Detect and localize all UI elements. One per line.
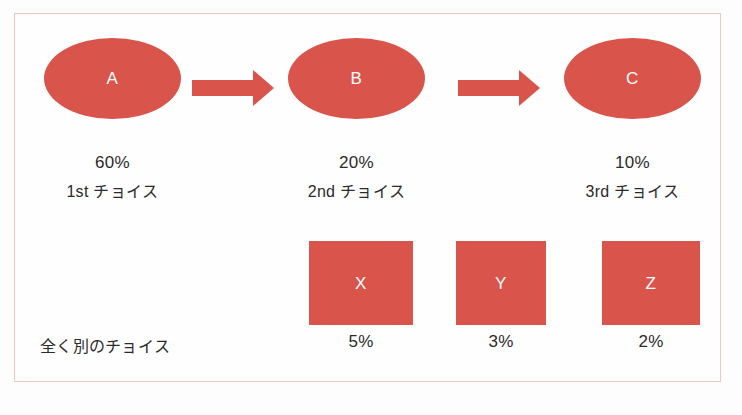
flow-caption-c: 10% 3rd チョイス <box>564 152 701 202</box>
flow-caption-a: 60% 1st チョイス <box>44 152 181 202</box>
alt-node-z[interactable]: Z <box>602 241 700 325</box>
alt-percent-z: 2% <box>602 332 700 352</box>
arrow-a-to-b-icon <box>192 70 274 106</box>
alt-node-x-letter: X <box>355 275 367 292</box>
arrow-head <box>519 70 540 106</box>
flow-percent-c: 10% <box>564 152 701 173</box>
flow-node-a-letter: A <box>107 70 119 87</box>
flow-caption-b: 20% 2nd チョイス <box>288 152 425 202</box>
flow-percent-b: 20% <box>288 152 425 173</box>
flow-label-b: 2nd チョイス <box>288 182 425 202</box>
arrow-b-to-c-icon <box>458 70 540 106</box>
alt-node-y-letter: Y <box>495 275 507 292</box>
flow-node-a[interactable]: A <box>44 38 181 119</box>
flow-node-b[interactable]: B <box>288 38 425 119</box>
alt-percent-x: 5% <box>309 332 413 352</box>
arrow-shaft <box>192 80 254 96</box>
flow-node-b-letter: B <box>351 70 363 87</box>
arrow-head <box>253 70 274 106</box>
diagram-canvas: A B C 60% 1st チョイス 20% 2nd チョイス 10% 3rd … <box>0 0 742 415</box>
flow-node-c[interactable]: C <box>564 38 701 119</box>
alt-node-z-letter: Z <box>646 275 657 292</box>
alt-node-y[interactable]: Y <box>456 241 546 325</box>
flow-label-c: 3rd チョイス <box>564 182 701 202</box>
alt-node-x[interactable]: X <box>309 241 413 325</box>
alt-percent-y: 3% <box>456 332 546 352</box>
flow-label-a: 1st チョイス <box>44 182 181 202</box>
arrow-shaft <box>458 80 520 96</box>
alt-row-label: 全く別のチョイス <box>40 333 170 357</box>
flow-percent-a: 60% <box>44 152 181 173</box>
flow-node-c-letter: C <box>626 70 639 87</box>
